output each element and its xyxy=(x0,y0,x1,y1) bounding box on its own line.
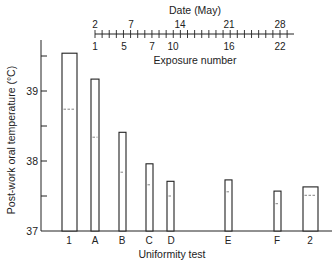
bar-1 xyxy=(62,53,77,231)
bar-A xyxy=(91,79,99,231)
bar-F xyxy=(274,191,281,231)
exposure-tick-10: 10 xyxy=(167,41,179,52)
exposure-axis-title: Exposure number xyxy=(154,54,237,66)
bar-E xyxy=(225,180,232,231)
exposure-tick-16: 16 xyxy=(223,41,235,52)
x-tick-E: E xyxy=(225,235,232,246)
date-tick-7: 7 xyxy=(128,19,134,30)
exposure-tick-7: 7 xyxy=(149,41,155,52)
y-axis xyxy=(41,40,47,231)
y-axis-title: Post-work oral temperature (°C) xyxy=(5,66,17,214)
exposure-tick-1: 1 xyxy=(92,41,98,52)
top-axis: Date (May) 2 7 14 21 28 1 5 7 10 16 22 E… xyxy=(92,4,294,66)
x-tick-F: F xyxy=(274,235,280,246)
bar-C xyxy=(146,164,153,231)
x-tick-A: A xyxy=(92,235,99,246)
date-tick-2: 2 xyxy=(92,19,98,30)
bar-B xyxy=(119,132,126,231)
y-tick-37: 37 xyxy=(26,225,38,237)
date-tick-28: 28 xyxy=(274,19,286,30)
x-tick-B: B xyxy=(119,235,126,246)
bar-D xyxy=(167,181,174,231)
x-tick-C: C xyxy=(145,235,152,246)
x-tick-2: 2 xyxy=(307,235,313,246)
x-tick-1: 1 xyxy=(66,235,72,246)
x-tick-D: D xyxy=(167,235,174,246)
y-tick-38: 38 xyxy=(26,155,38,167)
top-axis-title: Date (May) xyxy=(169,4,221,16)
exposure-tick-22: 22 xyxy=(274,41,286,52)
bars xyxy=(62,53,318,231)
x-axis-title: Uniformity test xyxy=(138,248,205,260)
date-tick-14: 14 xyxy=(174,19,186,30)
y-tick-39: 39 xyxy=(26,85,38,97)
chart-canvas: Date (May) 2 7 14 21 28 1 5 7 10 16 22 E… xyxy=(0,0,336,263)
bar-2 xyxy=(303,187,318,231)
exposure-tick-5: 5 xyxy=(121,41,127,52)
date-tick-21: 21 xyxy=(223,19,235,30)
